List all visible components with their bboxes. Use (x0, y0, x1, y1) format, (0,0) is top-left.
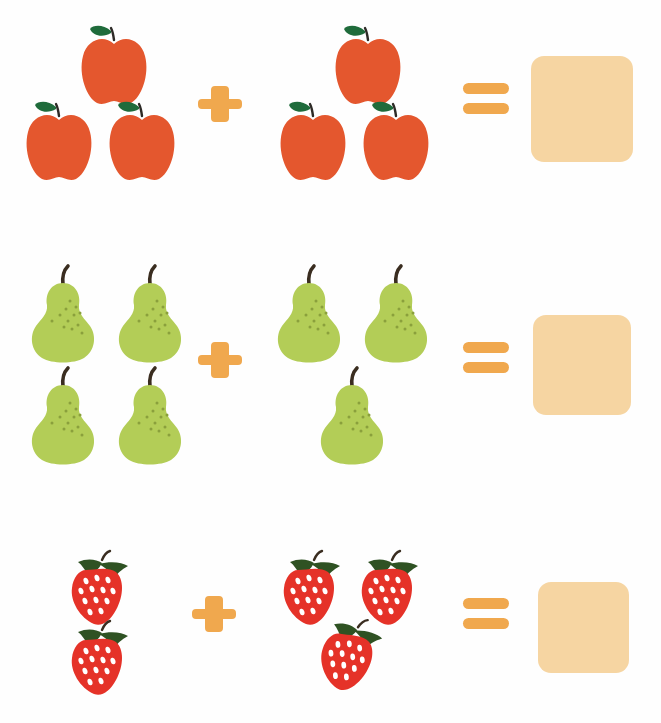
pear-group-right (268, 263, 438, 463)
pear-icon (109, 365, 191, 465)
problem-row-strawberries (0, 520, 661, 723)
strawberry-icon (300, 606, 397, 703)
apple-group-right (272, 22, 437, 182)
plus-sign-icon (198, 82, 242, 126)
answer-box-strawberries[interactable] (538, 582, 629, 673)
apple-icon (101, 98, 183, 188)
pear-group-left (22, 263, 192, 463)
pear-icon (22, 365, 104, 465)
plus-sign-icon (198, 338, 242, 382)
equals-sign-icon (463, 342, 509, 377)
strawberry-icon (58, 618, 140, 700)
plus-sign-icon (192, 592, 236, 636)
pear-icon (268, 263, 350, 363)
apple-icon (18, 98, 100, 188)
problem-row-pears (0, 241, 661, 520)
equals-sign-icon (463, 83, 509, 118)
answer-box-apples[interactable] (531, 56, 633, 162)
answer-box-pears[interactable] (533, 315, 631, 415)
strawberry-group-left (58, 548, 168, 698)
problem-row-apples (0, 0, 661, 241)
worksheet (0, 0, 661, 723)
pear-icon (311, 365, 393, 465)
apple-icon (355, 98, 437, 188)
apple-group-left (18, 22, 183, 182)
equals-sign-icon (463, 598, 509, 633)
apple-icon (272, 98, 354, 188)
pear-icon (22, 263, 104, 363)
pear-icon (355, 263, 437, 363)
pear-icon (109, 263, 191, 363)
strawberry-group-right (270, 548, 440, 703)
